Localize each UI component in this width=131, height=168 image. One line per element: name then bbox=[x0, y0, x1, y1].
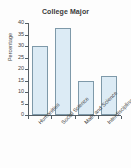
bar[interactable] bbox=[32, 46, 48, 115]
y-tick-label: 30 bbox=[18, 42, 24, 49]
y-tick-label: 25 bbox=[18, 54, 24, 61]
chart-title: College Major bbox=[0, 8, 131, 15]
y-tick bbox=[25, 46, 28, 47]
y-axis-label: Percentage bbox=[7, 17, 13, 77]
y-tick-label: 20 bbox=[18, 65, 24, 72]
x-tick bbox=[98, 116, 99, 119]
y-axis-line bbox=[28, 23, 29, 116]
y-tick-label: 35 bbox=[18, 31, 24, 38]
x-tick bbox=[28, 116, 29, 119]
y-tick-label: 5 bbox=[21, 100, 24, 107]
y-tick bbox=[25, 35, 28, 36]
y-tick-label: 10 bbox=[18, 88, 24, 95]
y-tick bbox=[25, 81, 28, 82]
y-tick-label: 15 bbox=[18, 77, 24, 84]
y-tick-label: 0 bbox=[21, 111, 24, 118]
y-tick-label: 40 bbox=[18, 19, 24, 26]
y-tick bbox=[25, 69, 28, 70]
x-tick bbox=[75, 116, 76, 119]
x-tick bbox=[121, 116, 122, 119]
y-tick bbox=[25, 23, 28, 24]
y-tick bbox=[25, 92, 28, 93]
bar-chart: College Major Percentage 051015202530354… bbox=[0, 0, 131, 168]
y-tick bbox=[25, 104, 28, 105]
y-tick bbox=[25, 58, 28, 59]
